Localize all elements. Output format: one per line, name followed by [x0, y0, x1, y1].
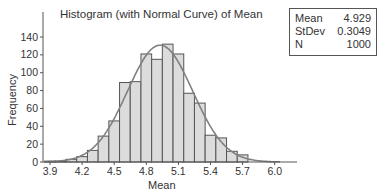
- y-tick-label: 60: [26, 102, 38, 114]
- y-tick-label: 80: [26, 84, 38, 96]
- histogram-bar: [109, 121, 120, 162]
- x-tick-label: 4.2: [75, 165, 90, 177]
- x-tick-label: 4.5: [107, 165, 122, 177]
- histogram-bar: [130, 82, 141, 162]
- y-tick-label: 0: [32, 156, 38, 168]
- y-tick-label: 120: [20, 48, 38, 60]
- x-tick-label: 3.9: [43, 165, 58, 177]
- histogram-bar: [184, 93, 195, 162]
- histogram-bar: [194, 103, 205, 162]
- x-tick-label: 6.0: [267, 165, 282, 177]
- y-tick-label: 20: [26, 138, 38, 150]
- histogram-bar: [141, 54, 152, 162]
- x-tick-label: 5.7: [235, 165, 250, 177]
- x-tick-label: 5.1: [171, 165, 186, 177]
- histogram-bar: [120, 83, 131, 162]
- histogram-bar: [227, 151, 238, 162]
- histogram-bar: [162, 44, 173, 162]
- histogram-plot: 0204060801001201403.94.24.54.85.15.45.76…: [0, 0, 380, 193]
- y-tick-label: 140: [20, 31, 38, 43]
- y-tick-label: 40: [26, 120, 38, 132]
- x-tick-label: 5.4: [203, 165, 218, 177]
- y-tick-label: 100: [20, 66, 38, 78]
- histogram-bar: [205, 135, 216, 162]
- histogram-bar: [152, 59, 163, 162]
- x-tick-label: 4.8: [139, 165, 154, 177]
- histogram-bar: [87, 150, 98, 162]
